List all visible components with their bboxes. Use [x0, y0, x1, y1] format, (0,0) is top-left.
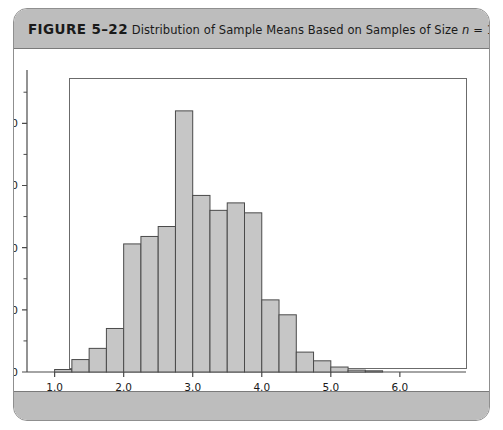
histogram-bar: [158, 227, 175, 372]
histogram-bar: [227, 203, 244, 372]
histogram-chart: 050001000015000200001.02.03.04.05.06.0: [14, 50, 490, 394]
figure-number: FIGURE 5–22: [28, 21, 128, 37]
histogram-bar: [89, 348, 106, 372]
histogram-bar: [279, 315, 296, 372]
histogram-bar: [348, 370, 365, 372]
histogram-bar: [55, 370, 72, 372]
histogram-bar: [314, 361, 331, 372]
figure-caption-part2: = 10: [469, 23, 490, 37]
histogram-bar: [106, 328, 123, 372]
histogram-bar: [262, 300, 279, 372]
histogram-bar: [175, 111, 192, 372]
histogram-bar: [331, 367, 348, 372]
histogram-bar: [245, 213, 262, 372]
figure-caption-bar: FIGURE 5–22 Distribution of Sample Means…: [14, 9, 489, 49]
y-tick-label: 20000: [14, 117, 18, 129]
histogram-bar: [296, 352, 313, 372]
histogram-bar: [141, 236, 158, 372]
histogram-bar: [193, 195, 210, 372]
figure-card: FIGURE 5–22 Distribution of Sample Means…: [13, 8, 490, 421]
figure-footer-bar: [14, 391, 489, 420]
y-tick-label: 15000: [14, 179, 18, 191]
figure-caption-text: FIGURE 5–22 Distribution of Sample Means…: [28, 21, 490, 37]
histogram-bar: [365, 371, 382, 372]
figure-caption-part1: Distribution of Sample Means Based on Sa…: [132, 23, 462, 37]
y-tick-label: 0: [14, 366, 18, 378]
histogram-bar: [124, 244, 141, 372]
y-tick-label: 5000: [14, 304, 18, 316]
plot-region: 050001000015000200001.02.03.04.05.06.0: [14, 50, 490, 394]
histogram-bar: [72, 360, 89, 372]
y-tick-label: 10000: [14, 242, 18, 254]
histogram-bar: [210, 210, 227, 372]
